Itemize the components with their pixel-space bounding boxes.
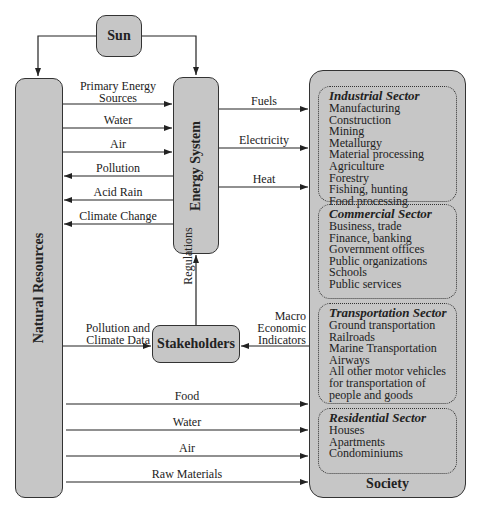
flow-label-water-society: Water: [66, 416, 308, 428]
sector-item: Public services: [329, 279, 456, 291]
flow-label-heat: Heat: [222, 173, 306, 185]
natural-resources-label: Natural Resources: [31, 233, 47, 344]
flow-label-food: Food: [66, 390, 308, 402]
sector-item: Condominiums: [329, 448, 456, 460]
energy-system-label: Energy System: [188, 121, 204, 211]
society-node: Industrial Sector Manufacturing Construc…: [309, 70, 466, 498]
flow-label-climate-change: Climate Change: [66, 210, 170, 222]
energy-system-node: Energy System: [173, 77, 219, 254]
industrial-sector: Industrial Sector Manufacturing Construc…: [318, 86, 457, 202]
flow-label-regulations: Regulations: [182, 226, 194, 286]
flow-label-electricity: Electricity: [222, 134, 306, 146]
flow-label-macro-economic: Macro Economic Indicators: [244, 310, 306, 346]
transportation-sector: Transportation Sector Ground transportat…: [318, 303, 457, 404]
flow-label-primary-energy: Primary Energy Sources: [66, 80, 170, 104]
flow-label-air: Air: [66, 138, 170, 150]
residential-sector: Residential Sector Houses Apartments Con…: [318, 408, 457, 474]
sun-node: Sun: [96, 15, 142, 57]
natural-resources-node: Natural Resources: [15, 78, 63, 498]
stakeholders-node: Stakeholders: [152, 325, 240, 363]
flow-label-raw-materials: Raw Materials: [66, 468, 308, 480]
flow-label-pollution: Pollution: [66, 162, 170, 174]
flow-label-pollution-climate-data: Pollution and Climate Data: [66, 322, 150, 346]
flow-label-acid-rain: Acid Rain: [66, 186, 170, 198]
commercial-sector: Commercial Sector Business, trade Financ…: [318, 204, 457, 299]
society-label: Society: [310, 476, 465, 492]
sun-label: Sun: [97, 28, 141, 44]
sector-item: people and goods: [329, 390, 456, 402]
flow-label-water: Water: [66, 114, 170, 126]
stakeholders-label: Stakeholders: [153, 336, 239, 352]
flow-label-fuels: Fuels: [222, 95, 306, 107]
flow-label-air-society: Air: [66, 442, 308, 454]
